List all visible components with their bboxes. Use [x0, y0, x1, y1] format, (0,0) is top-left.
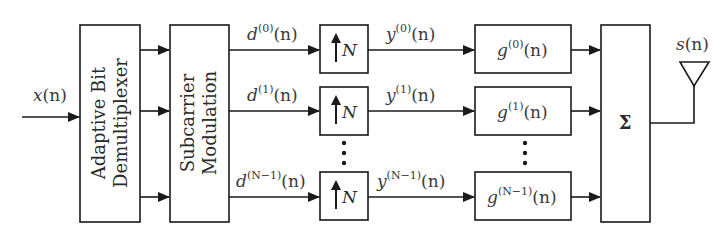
- y-label-2: y(N−1)(n): [376, 169, 445, 191]
- modulation-label-line2: Modulation: [199, 70, 220, 175]
- summation-block: Σ: [601, 25, 650, 222]
- output-signal: s(n): [650, 34, 709, 123]
- output-label: s(n): [676, 34, 709, 54]
- y-label-1: y(1)(n): [385, 83, 435, 105]
- branch-n-minus-1: d(N−1)(n) N y(N−1)(n) g(N−1)(n): [229, 169, 600, 220]
- output-wire: [650, 86, 694, 123]
- branch-0: d(0)(n) N y(0)(n) g(0)(n): [229, 22, 600, 73]
- upsample-factor-0: N: [341, 40, 358, 60]
- sigma-symbol: Σ: [619, 112, 632, 133]
- vertical-ellipsis-filter: [523, 141, 527, 165]
- modulation-label-line1: Subcarrier: [177, 73, 198, 172]
- y-label-0: y(0)(n): [385, 22, 435, 44]
- d-label-2: d(N−1)(n): [236, 169, 306, 191]
- upsample-factor-2: N: [341, 187, 358, 207]
- d-label-1: d(1)(n): [247, 83, 298, 105]
- upsample-factor-1: N: [341, 102, 358, 122]
- branch-1: d(1)(n) N y(1)(n) g(1)(n): [229, 83, 600, 135]
- vertical-ellipsis-upsampler: [342, 141, 346, 165]
- input-label: x(n): [33, 85, 67, 105]
- demux-label-line1: Adaptive Bit: [88, 66, 109, 180]
- antenna-icon: [680, 62, 709, 86]
- demux-block: Adaptive Bit Demultiplexer: [80, 25, 140, 222]
- subcarrier-modulation-block: Subcarrier Modulation: [170, 25, 229, 222]
- ofdm-transmitter-diagram: x(n) Adaptive Bit Demultiplexer Subcarri…: [0, 0, 727, 235]
- input-signal: x(n): [22, 85, 79, 117]
- demux-label-line2: Demultiplexer: [110, 58, 131, 188]
- d-label-0: d(0)(n): [247, 22, 298, 44]
